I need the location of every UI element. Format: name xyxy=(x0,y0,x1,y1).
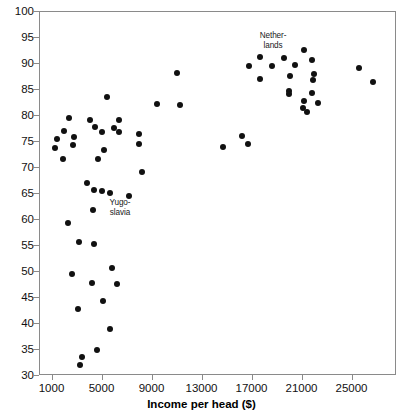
y-tick-label: 35 xyxy=(0,343,34,355)
data-point xyxy=(139,169,145,175)
data-point xyxy=(257,76,263,82)
data-point xyxy=(61,128,67,134)
y-tick-label: 80 xyxy=(0,109,34,121)
y-tick-label: 40 xyxy=(0,317,34,329)
data-point xyxy=(257,54,263,60)
data-point xyxy=(69,271,75,277)
data-point xyxy=(89,280,95,286)
data-point xyxy=(245,141,251,147)
data-point xyxy=(301,98,307,104)
data-point xyxy=(60,156,66,162)
data-point xyxy=(315,100,321,106)
data-point xyxy=(79,354,85,360)
data-point xyxy=(54,136,60,142)
x-tick-label: 13000 xyxy=(186,382,218,394)
data-point xyxy=(309,57,315,63)
data-point xyxy=(126,193,132,199)
data-point xyxy=(52,145,58,151)
y-tick-mark xyxy=(33,219,39,220)
y-tick-mark xyxy=(33,297,39,298)
y-tick-mark xyxy=(33,141,39,142)
x-tick-mark xyxy=(352,374,353,380)
y-tick-mark xyxy=(33,11,39,12)
data-point xyxy=(90,207,96,213)
x-tick-label: 9000 xyxy=(139,382,165,394)
y-tick-mark xyxy=(33,193,39,194)
data-point xyxy=(309,90,315,96)
y-axis: 3035404550556065707580859095100 xyxy=(0,0,36,417)
scatter-chart: 3035404550556065707580859095100 10005000… xyxy=(0,0,403,417)
y-tick-label: 95 xyxy=(0,31,34,43)
x-axis-title: Income per head ($) xyxy=(0,398,403,410)
data-point xyxy=(301,47,307,53)
x-tick-mark xyxy=(102,374,103,380)
data-point xyxy=(136,131,142,137)
y-tick-mark xyxy=(33,63,39,64)
y-tick-mark xyxy=(33,37,39,38)
data-point xyxy=(304,109,310,115)
x-tick-mark xyxy=(152,374,153,380)
y-tick-mark xyxy=(33,349,39,350)
data-point xyxy=(239,133,245,139)
data-point xyxy=(104,94,110,100)
data-point xyxy=(174,70,180,76)
y-tick-label: 55 xyxy=(0,239,34,251)
data-point xyxy=(91,241,97,247)
data-point xyxy=(116,129,122,135)
data-point xyxy=(310,77,316,83)
data-point xyxy=(107,326,113,332)
y-tick-label: 50 xyxy=(0,265,34,277)
y-tick-mark xyxy=(33,89,39,90)
data-point xyxy=(95,156,101,162)
x-tick-mark xyxy=(252,374,253,380)
x-tick-label: 17000 xyxy=(236,382,268,394)
y-tick-label: 65 xyxy=(0,187,34,199)
data-point xyxy=(281,55,287,61)
y-tick-mark xyxy=(33,375,39,376)
data-point xyxy=(94,347,100,353)
data-point xyxy=(136,141,142,147)
x-tick-label: 1000 xyxy=(39,382,65,394)
data-point xyxy=(370,79,376,85)
x-tick-label: 5000 xyxy=(89,382,115,394)
point-label: Nether-lands xyxy=(260,31,287,50)
y-tick-mark xyxy=(33,167,39,168)
x-tick-mark xyxy=(302,374,303,380)
data-point xyxy=(269,63,275,69)
y-tick-mark xyxy=(33,323,39,324)
y-tick-mark xyxy=(33,115,39,116)
data-point xyxy=(109,265,115,271)
data-point xyxy=(114,281,120,287)
data-point xyxy=(292,62,298,68)
y-tick-label: 90 xyxy=(0,57,34,69)
x-tick-label: 25000 xyxy=(336,382,368,394)
data-point xyxy=(84,180,90,186)
data-point xyxy=(77,362,83,368)
data-point xyxy=(154,101,160,107)
data-point xyxy=(100,298,106,304)
data-point xyxy=(65,220,71,226)
x-tick-mark xyxy=(52,374,53,380)
y-tick-mark xyxy=(33,245,39,246)
data-point xyxy=(66,115,72,121)
y-tick-label: 75 xyxy=(0,135,34,147)
data-point xyxy=(99,188,105,194)
y-tick-label: 30 xyxy=(0,369,34,381)
data-point xyxy=(70,142,76,148)
y-tick-label: 70 xyxy=(0,161,34,173)
plot-area xyxy=(39,11,396,375)
y-tick-mark xyxy=(33,271,39,272)
y-tick-label: 85 xyxy=(0,83,34,95)
data-point xyxy=(246,63,252,69)
y-tick-label: 45 xyxy=(0,291,34,303)
x-tick-mark xyxy=(202,374,203,380)
y-tick-label: 100 xyxy=(0,5,34,17)
data-point xyxy=(99,129,105,135)
data-point xyxy=(101,147,107,153)
y-tick-label: 60 xyxy=(0,213,34,225)
data-point xyxy=(177,102,183,108)
point-label: Yugo-slavia xyxy=(110,198,131,217)
data-point xyxy=(220,144,226,150)
x-tick-label: 21000 xyxy=(286,382,318,394)
